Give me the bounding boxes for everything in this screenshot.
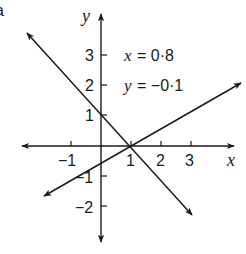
x-tick-label-3: 3 (185, 152, 194, 169)
y-tick-label-neg2: −2 (75, 199, 93, 216)
part-label: a (0, 2, 4, 19)
solution-y-var: y (122, 76, 132, 95)
y-tick-label-1: 1 (85, 107, 94, 124)
x-tick-label-2: 2 (156, 152, 165, 169)
solution-x-var: x (123, 46, 132, 65)
x-axis-label: x (226, 150, 235, 170)
ascending-line (44, 83, 241, 196)
solution-x-value: = 0·8 (137, 47, 174, 64)
solution-y-value: = −0·1 (137, 77, 183, 94)
y-tick-label-3: 3 (85, 47, 94, 64)
y-tick-label-2: 2 (85, 77, 94, 94)
solution-x: x = 0·8 (123, 46, 174, 65)
x-tick-label-1: 1 (126, 152, 135, 169)
solution-y: y = −0·1 (122, 76, 183, 95)
linear-graph-diagram: a −1 1 2 3 3 2 1 −1 −2 x y x = 0·8 y = −… (0, 0, 246, 254)
y-axis-ticks (101, 55, 107, 206)
y-axis-label: y (80, 6, 90, 26)
x-tick-label-neg1: −1 (58, 152, 76, 169)
